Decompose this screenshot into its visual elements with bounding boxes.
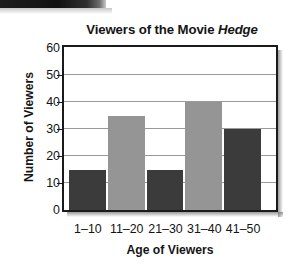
chart-title: Viewers of the Movie Hedge (58, 22, 286, 37)
bar-21-30 (147, 170, 184, 211)
plot-frame-shadow-bottom (67, 212, 283, 217)
plot-frame-shadow-right (278, 50, 283, 217)
x-axis-title: Age of Viewers (62, 243, 278, 257)
bar-41-50 (224, 129, 261, 210)
y-tick-label-40: 40 (26, 95, 60, 109)
y-tick-label-0: 0 (26, 203, 60, 217)
y-tick-label-50: 50 (26, 68, 60, 82)
chart-title-plain: Viewers of the Movie (86, 22, 218, 37)
y-axis-tick-labels: 0102030405060 (22, 45, 60, 212)
bar-1-10 (69, 170, 106, 211)
y-tick-label-30: 30 (26, 122, 60, 136)
bar-11-20 (108, 116, 145, 211)
bar-chart-figure: Viewers of the Movie Hedge Number of Vie… (0, 0, 304, 267)
plot-frame (62, 45, 278, 212)
chart-title-emphasis: Hedge (218, 22, 258, 37)
y-tick-label-60: 60 (26, 41, 60, 55)
y-tick-label-10: 10 (26, 176, 60, 190)
y-tick-label-20: 20 (26, 149, 60, 163)
gridline-50 (64, 74, 276, 75)
plot-area (64, 47, 276, 210)
x-axis-tick-labels: 1–1011–2021–3031–4041–50 (62, 222, 278, 240)
gridline-40 (64, 101, 276, 102)
x-tick-label-4: 41–50 (213, 222, 273, 236)
bar-31-40 (185, 102, 222, 210)
